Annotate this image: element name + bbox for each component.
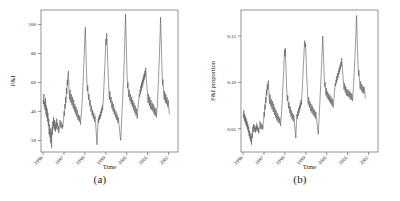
x-tick-label: 1998 [275, 155, 286, 166]
plot-b-svg: 0.050.100.151996199719981999200020012002… [200, 0, 400, 201]
x-tick-label: 1996 [33, 155, 44, 166]
y-tick-label: 60 [31, 80, 37, 85]
panel-b: 0.050.100.151996199719981999200020012002… [200, 0, 400, 201]
y-tick-label: 0.10 [227, 80, 236, 85]
panel-b-caption: (b) [200, 173, 400, 185]
x-tick-label: 1996 [233, 155, 244, 166]
x-tick-label: 1997 [254, 155, 265, 166]
panel-a: 204060801001996199719981999200020012002T… [0, 0, 200, 201]
panel-a-caption: (a) [0, 173, 200, 185]
series-line [43, 14, 169, 147]
x-tick-label: 1998 [75, 155, 86, 166]
y-tick-label: 40 [31, 109, 37, 114]
series-line [243, 16, 365, 145]
y-tick-label: 20 [31, 138, 37, 143]
x-axis-label: Time [303, 163, 317, 170]
x-tick-label: 2002 [159, 155, 170, 166]
x-axis-label: Time [103, 163, 117, 170]
x-tick-label: 2001 [338, 155, 349, 166]
y-axis-label: P&I proportion [209, 60, 216, 101]
y-tick-label: 100 [29, 22, 37, 27]
y-tick-label: 0.15 [227, 34, 236, 39]
x-tick-label: 2000 [117, 155, 128, 166]
x-tick-label: 2001 [138, 155, 149, 166]
figure-container: 204060801001996199719981999200020012002T… [0, 0, 400, 201]
plot-frame [41, 10, 178, 152]
y-axis-label: P&I [9, 76, 16, 87]
x-tick-label: 2002 [359, 155, 370, 166]
y-tick-label: 0.05 [227, 127, 236, 132]
x-tick-label: 2000 [317, 155, 328, 166]
y-tick-label: 80 [31, 51, 37, 56]
plot-a-svg: 204060801001996199719981999200020012002T… [0, 0, 200, 201]
plot-frame [241, 10, 378, 152]
x-tick-label: 1997 [54, 155, 65, 166]
